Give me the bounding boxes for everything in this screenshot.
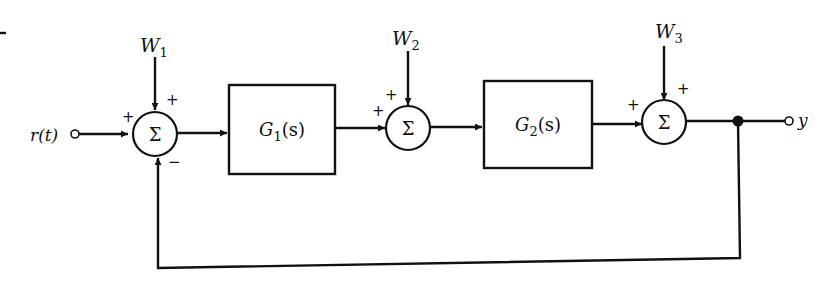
svg-text:Σ: Σ: [149, 124, 162, 145]
s1-bottom-sign: −: [168, 153, 181, 171]
svg-text:W1: W1: [140, 34, 168, 60]
input-terminal: r(t): [30, 125, 79, 145]
output-terminal: y: [785, 110, 808, 130]
svg-text:W3: W3: [655, 20, 683, 46]
svg-text:Σ: Σ: [402, 118, 415, 139]
svg-text:Σ: Σ: [658, 112, 671, 133]
disturbance-w3: W3: [655, 20, 683, 46]
s3-top-sign: +: [677, 80, 690, 98]
output-label: y: [797, 110, 808, 130]
disturbance-w1: W1: [140, 34, 168, 60]
summing-junction-2: Σ: [386, 106, 430, 150]
disturbance-w2: W2: [392, 27, 420, 53]
input-label: r(t): [30, 125, 58, 145]
s2-top-sign: +: [385, 86, 398, 104]
s3-left-sign: +: [627, 96, 640, 114]
block-g2: G2(s): [484, 81, 592, 168]
s1-top-sign: +: [166, 91, 179, 109]
s2-left-sign: +: [372, 102, 385, 120]
block-diagram: r(t) W1 Σ + + − G1(s) W2 Σ + + G2(s) W3: [0, 0, 837, 293]
s1-left-sign: +: [122, 108, 135, 126]
block-g1: G1(s): [229, 85, 335, 174]
summing-junction-3: Σ: [642, 100, 686, 144]
svg-text:W2: W2: [392, 27, 420, 53]
summing-junction-1: Σ: [133, 112, 177, 156]
